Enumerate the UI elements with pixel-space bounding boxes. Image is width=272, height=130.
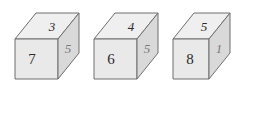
- cube-1-top-number: 3: [48, 19, 56, 34]
- answer-blank-row: ( ): [0, 92, 272, 130]
- cube-3-front-number: 8: [186, 51, 194, 67]
- three-cubes-illustration: 3 7 5 4 6 5 5 8 1: [0, 0, 272, 95]
- figure-panel: 3 7 5 4 6 5 5 8 1 ( ): [0, 0, 272, 130]
- cube-2-right-number: 5: [144, 41, 151, 56]
- cube-3-top-number: 5: [201, 19, 208, 34]
- cube-3: 5 8 1: [173, 13, 230, 79]
- cube-3-right-number: 1: [216, 41, 223, 56]
- cube-1-front-face: [15, 39, 58, 79]
- cube-1-front-number: 7: [28, 51, 36, 67]
- cube-1-right-number: 5: [65, 41, 72, 56]
- cube-2-front-face: [94, 39, 137, 79]
- cube-2-front-number: 6: [107, 51, 115, 67]
- cube-1: 3 7 5: [15, 13, 79, 79]
- cube-2-top-number: 4: [128, 19, 135, 34]
- cube-2: 4 6 5: [94, 13, 158, 79]
